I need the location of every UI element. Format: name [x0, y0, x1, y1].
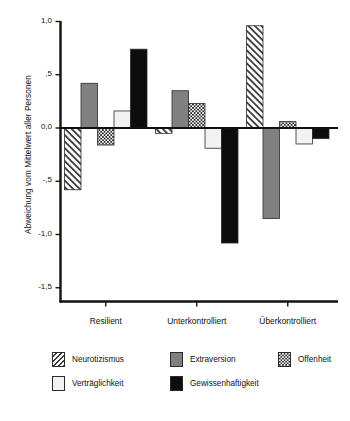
legend-label-offenheit: Offenheit	[298, 355, 331, 364]
bar-1-2	[189, 104, 206, 129]
bar-0-1	[81, 83, 98, 128]
bar-2-4	[313, 128, 330, 139]
x-tick-label-0: Resilient	[90, 316, 122, 326]
legend-label-neurotizismus: Neurotizismus	[72, 355, 124, 364]
legend-swatch-offenheit-icon	[278, 352, 291, 367]
y-tick-label-5: -1,5	[26, 283, 52, 291]
legend-swatch-extraversion-icon	[170, 352, 183, 367]
bar-0-3	[114, 111, 131, 128]
bar-1-3	[205, 128, 222, 148]
bar-0-2	[98, 128, 115, 145]
legend-row-1: Neurotizismus Extraversion Offenheit	[52, 352, 348, 367]
chart-legend: Neurotizismus Extraversion Offenheit Ver…	[52, 352, 348, 400]
bar-chart: Abweichung vom Mittelwert aller Personen…	[0, 0, 350, 421]
y-tick-label-3: -,5	[26, 176, 52, 184]
legend-item-gewissenhaftigkeit: Gewissenhaftigkeit	[170, 376, 259, 391]
y-tick-label-2: 0,0	[26, 123, 52, 131]
legend-label-extraversion: Extraversion	[190, 355, 236, 364]
bar-1-1	[172, 91, 189, 128]
y-tick-label-4: -1,0	[26, 230, 52, 238]
y-tick-label-0: 1,0	[26, 17, 52, 25]
bars-layer	[65, 26, 330, 243]
legend-label-gewissenhaftigkeit: Gewissenhaftigkeit	[190, 379, 259, 388]
legend-item-vertraeglichkeit: Verträglichkeit	[52, 376, 170, 391]
legend-swatch-neurotizismus-icon	[52, 352, 65, 367]
legend-item-extraversion: Extraversion	[170, 352, 278, 367]
bar-2-3	[296, 128, 313, 144]
bar-2-0	[247, 26, 264, 128]
y-tick-label-1: ,5	[26, 70, 52, 78]
x-tick-label-2: Überkontrolliert	[259, 316, 316, 326]
bar-0-4	[131, 49, 148, 128]
bar-0-0	[65, 128, 82, 190]
legend-label-vertraeglichkeit: Verträglichkeit	[72, 379, 123, 388]
bar-2-1	[263, 128, 280, 219]
legend-row-2: Verträglichkeit Gewissenhaftigkeit	[52, 376, 348, 391]
x-tick-label-1: Unterkontrolliert	[167, 316, 226, 326]
legend-item-offenheit: Offenheit	[278, 352, 331, 367]
legend-item-neurotizismus: Neurotizismus	[52, 352, 170, 367]
bar-1-4	[222, 128, 239, 243]
legend-swatch-vertraeglichkeit-icon	[52, 376, 65, 391]
legend-swatch-gewissenhaftigkeit-icon	[170, 376, 183, 391]
